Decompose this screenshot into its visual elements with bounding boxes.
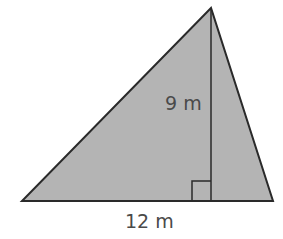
height-label: 9 m <box>165 92 202 114</box>
base-label: 12 m <box>125 210 174 232</box>
triangle-diagram <box>0 0 283 239</box>
triangle <box>22 8 273 201</box>
